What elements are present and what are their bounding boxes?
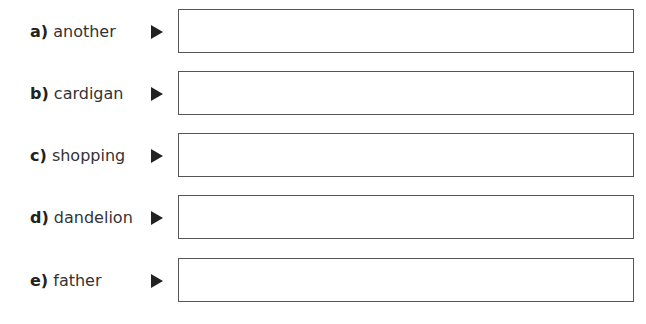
item-row-c: c) shopping [0, 133, 646, 179]
arrow-right-icon [151, 25, 163, 39]
item-label: d) dandelion [30, 195, 133, 241]
answer-box-b[interactable] [178, 71, 634, 115]
item-word: father [53, 271, 101, 290]
item-word: dandelion [54, 208, 133, 227]
arrow-right-icon [151, 274, 163, 288]
item-label: e) father [30, 258, 102, 304]
item-letter: c) [30, 146, 47, 165]
item-word: cardigan [54, 84, 124, 103]
answer-box-e[interactable] [178, 258, 634, 302]
item-letter: a) [30, 22, 48, 41]
item-row-b: b) cardigan [0, 71, 646, 117]
answer-box-d[interactable] [178, 195, 634, 239]
item-label: b) cardigan [30, 71, 123, 117]
arrow-right-icon [151, 87, 163, 101]
item-word: another [53, 22, 116, 41]
item-row-d: d) dandelion [0, 195, 646, 241]
item-label: a) another [30, 9, 116, 55]
item-word: shopping [52, 146, 125, 165]
item-letter: b) [30, 84, 49, 103]
item-letter: e) [30, 271, 48, 290]
item-letter: d) [30, 208, 49, 227]
item-row-a: a) another [0, 9, 646, 55]
arrow-right-icon [151, 149, 163, 163]
arrow-right-icon [151, 211, 163, 225]
item-label: c) shopping [30, 133, 125, 179]
item-row-e: e) father [0, 258, 646, 304]
answer-box-c[interactable] [178, 133, 634, 177]
answer-box-a[interactable] [178, 9, 634, 53]
